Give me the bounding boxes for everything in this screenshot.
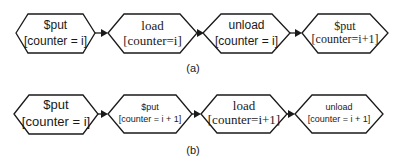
row-a-node-3: unload [counter = i] (203, 14, 290, 53)
node-label: load (141, 18, 164, 33)
caption-a: (a) (186, 62, 199, 74)
node-condition: [counter=i+1] (312, 32, 379, 46)
node-label: $put (334, 19, 356, 33)
arrow-head-icon (101, 29, 108, 37)
arrow-head-icon (101, 110, 108, 118)
node-label: unload (228, 18, 264, 32)
row-a-node-4: $put [counter=i+1] (302, 14, 388, 53)
arrow-connector (98, 110, 108, 118)
node-condition: [counter = i + 1] (119, 114, 182, 124)
row-a-node-2: load [counter=i] (108, 14, 197, 53)
caption-b: (b) (186, 144, 199, 156)
arrow-head-icon (194, 110, 201, 118)
node-condition: [counter = i] (22, 114, 90, 129)
node-condition: [counter = i] (24, 34, 87, 48)
arrow-head-icon (295, 29, 302, 37)
arrow-connector (287, 110, 295, 118)
node-label: unload (325, 102, 352, 112)
row-b: $put [counter = i] $put [counter = i + 1… (14, 95, 383, 156)
row-a: $put [counter = i] load [counter=i] unlo… (16, 14, 388, 74)
node-label: $put (141, 102, 159, 112)
node-condition: [counter=i] (123, 33, 182, 48)
row-b-node-1: $put [counter = i] (14, 95, 98, 134)
row-b-node-2: $put [counter = i + 1] (108, 95, 192, 133)
arrow-connector (192, 110, 201, 118)
node-condition: [counter = i + 1] (308, 114, 371, 124)
node-condition: [counter = i] (215, 34, 278, 48)
arrow-connector (95, 29, 108, 37)
node-label: $put (43, 97, 69, 112)
node-condition: [counter=i+1] (208, 112, 280, 127)
row-b-node-3: load [counter=i+1] (201, 95, 287, 133)
node-label: $put (44, 18, 68, 32)
arrow-head-icon (288, 110, 295, 118)
node-label: load (233, 98, 256, 113)
sequence-diagram: $put [counter = i] load [counter=i] unlo… (0, 0, 397, 164)
row-b-node-4: unload [counter = i + 1] (295, 95, 383, 133)
arrow-connector (290, 29, 302, 37)
row-a-node-1: $put [counter = i] (16, 14, 95, 53)
